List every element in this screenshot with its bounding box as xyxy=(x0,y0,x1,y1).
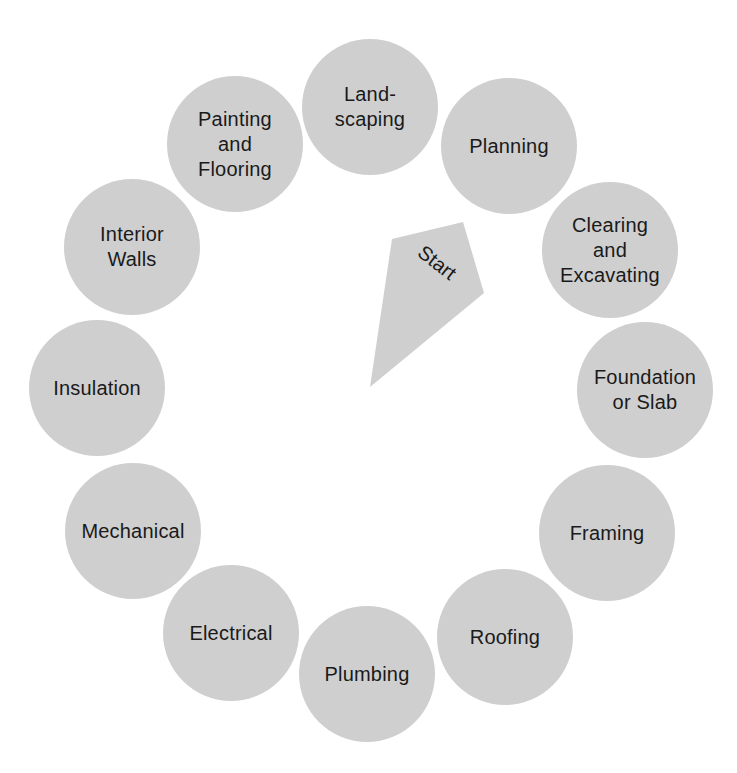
stage-landscaping: Land- scaping xyxy=(302,39,438,175)
stage-electrical: Electrical xyxy=(163,565,299,701)
stage-mechanical: Mechanical xyxy=(65,463,201,599)
stage-plumbing: Plumbing xyxy=(299,606,435,742)
stage-label: Clearing and Excavating xyxy=(560,213,660,288)
stage-label: Roofing xyxy=(470,625,540,650)
stage-label: Plumbing xyxy=(325,662,410,687)
stage-insulation: Insulation xyxy=(29,320,165,456)
stage-planning: Planning xyxy=(441,78,577,214)
stage-label: Land- scaping xyxy=(335,82,405,132)
stage-label: Framing xyxy=(570,521,645,546)
stage-foundation-or-slab: Foundation or Slab xyxy=(577,322,713,458)
stage-painting-and-flooring: Painting and Flooring xyxy=(167,76,303,212)
stage-label: Electrical xyxy=(189,621,272,646)
stage-label: Mechanical xyxy=(81,519,184,544)
stage-framing: Framing xyxy=(539,465,675,601)
stage-label: Painting and Flooring xyxy=(198,107,272,182)
stage-label: Interior Walls xyxy=(100,222,164,272)
stage-label: Insulation xyxy=(53,376,141,401)
construction-cycle-diagram: Start Planning Clearing and Excavating F… xyxy=(0,0,737,773)
stage-clearing-and-excavating: Clearing and Excavating xyxy=(542,182,678,318)
stage-roofing: Roofing xyxy=(437,569,573,705)
stage-label: Foundation or Slab xyxy=(594,365,696,415)
stage-label: Planning xyxy=(469,134,548,159)
stage-interior-walls: Interior Walls xyxy=(64,179,200,315)
